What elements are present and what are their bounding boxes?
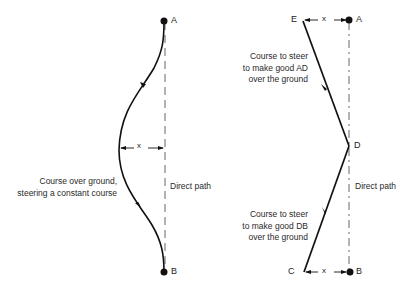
right-point-e-label: E <box>291 14 297 24</box>
diagram-canvas <box>0 0 411 298</box>
right-upper-leg-line <box>303 21 349 146</box>
left-point-a-dot <box>161 18 168 25</box>
left-course-label-line2: steering a constant course <box>10 188 117 200</box>
left-point-b-dot <box>161 269 168 276</box>
right-bottom-x-arrow-left-icon <box>305 270 311 274</box>
left-arrow-lower-icon <box>135 202 142 207</box>
right-point-d-label: D <box>354 140 361 150</box>
left-course-label-line1: Course over ground, <box>10 176 117 188</box>
left-direct-path-label: Direct path <box>170 181 211 193</box>
right-point-b-label: B <box>356 266 362 276</box>
right-direct-path-label: Direct path <box>355 181 396 193</box>
left-course-label: Course over ground, steering a constant … <box>10 176 117 199</box>
right-bottom-x-arrow-right-icon <box>341 270 347 274</box>
left-x-arrow-right-icon <box>158 146 164 150</box>
right-point-b-dot <box>347 269 354 276</box>
left-offset-label: x <box>137 141 141 150</box>
right-lower-leg-line <box>304 146 349 272</box>
right-lower-leg-label: Course to steer to make good DB over the… <box>230 209 308 244</box>
right-point-c-label: C <box>288 266 295 276</box>
right-point-a-label: A <box>356 14 362 24</box>
upper-leg-label-line2: to make good AD <box>230 63 308 75</box>
right-top-x-arrow-left-icon <box>304 18 310 22</box>
right-upper-leg-label: Course to steer to make good AD over the… <box>230 51 308 86</box>
left-x-arrow-left-icon <box>120 146 126 150</box>
left-point-b-label: B <box>171 266 177 276</box>
right-bottom-offset-label: x <box>322 266 326 275</box>
lower-leg-label-line3: over the ground <box>230 232 308 244</box>
left-point-a-label: A <box>171 15 177 25</box>
right-top-offset-label: x <box>322 14 326 23</box>
upper-leg-label-line3: over the ground <box>230 74 308 86</box>
lower-leg-label-line2: to make good DB <box>230 221 308 233</box>
lower-leg-label-line1: Course to steer <box>230 209 308 221</box>
upper-leg-label-line1: Course to steer <box>230 51 308 63</box>
